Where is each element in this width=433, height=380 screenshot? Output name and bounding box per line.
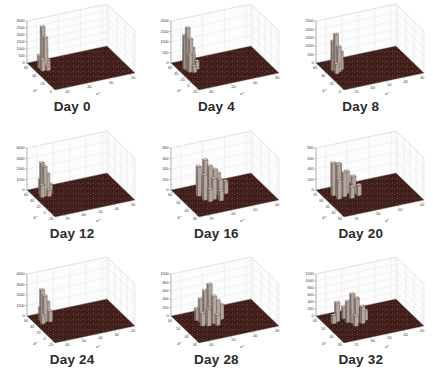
svg-text:60: 60 xyxy=(24,193,28,197)
panel-title: Day 16 xyxy=(194,227,239,241)
svg-text:-50: -50 xyxy=(386,336,391,340)
svg-text:-40: -40 xyxy=(402,333,407,337)
svg-text:3000: 3000 xyxy=(17,19,25,23)
svg-text:40: 40 xyxy=(30,199,34,203)
svg-text:0: 0 xyxy=(44,337,46,341)
svg-text:200: 200 xyxy=(307,177,313,181)
svg-text:1500: 1500 xyxy=(305,36,313,40)
svg-text:2000: 2000 xyxy=(17,293,25,297)
svg-text:20: 20 xyxy=(329,82,333,86)
svg-text:500: 500 xyxy=(307,53,313,57)
svg-text:-30: -30 xyxy=(419,76,424,80)
svg-text:200: 200 xyxy=(163,306,169,310)
svg-text:40: 40 xyxy=(185,335,189,339)
svg-text:-50: -50 xyxy=(231,339,236,343)
svg-text:-30: -30 xyxy=(274,329,279,333)
svg-text:-70: -70 xyxy=(353,217,358,221)
svg-text:500: 500 xyxy=(163,51,169,55)
svg-text:-20: -20 xyxy=(130,76,135,80)
svg-text:40: 40 xyxy=(321,74,325,78)
svg-text:50: 50 xyxy=(177,327,181,331)
hist3d-plot: 02004006008007060504030-70-60-50-40b*a* xyxy=(289,128,433,232)
panel-day-24: 010002000300040006040200-20-60-50-40-30-… xyxy=(0,254,144,380)
svg-text:-40: -40 xyxy=(253,334,258,338)
svg-text:60: 60 xyxy=(169,193,173,197)
svg-text:60: 60 xyxy=(169,319,173,323)
y-axis-label: a* xyxy=(240,218,244,223)
svg-text:50: 50 xyxy=(177,201,181,205)
hist3d-plot: 020040060080060504030-70-60-50-40b*a* xyxy=(144,128,288,232)
y-axis-label: a* xyxy=(96,91,100,96)
svg-text:600: 600 xyxy=(163,289,169,293)
svg-text:600: 600 xyxy=(307,293,313,297)
svg-text:0: 0 xyxy=(44,211,46,215)
svg-text:20: 20 xyxy=(37,205,41,209)
svg-text:30: 30 xyxy=(337,217,341,221)
svg-text:1000: 1000 xyxy=(305,44,313,48)
svg-text:1000: 1000 xyxy=(161,40,169,44)
svg-text:400: 400 xyxy=(163,298,169,302)
svg-text:40: 40 xyxy=(30,325,34,329)
svg-text:-20: -20 xyxy=(130,329,135,333)
svg-text:50: 50 xyxy=(321,327,325,331)
svg-text:2500: 2500 xyxy=(17,26,25,30)
hist3d-plot: 010002000300040006040200-20-70-60-50-40-… xyxy=(0,128,144,232)
svg-text:-30: -30 xyxy=(108,81,113,85)
svg-text:-60: -60 xyxy=(370,86,375,90)
svg-text:800: 800 xyxy=(307,146,313,150)
svg-text:30: 30 xyxy=(193,217,197,221)
hist3d-plot: 05001000150020006040200-20-60-50-40-30b*… xyxy=(144,1,288,105)
svg-text:20: 20 xyxy=(181,78,185,82)
svg-text:30: 30 xyxy=(337,343,341,347)
svg-text:60: 60 xyxy=(24,319,28,323)
svg-text:0: 0 xyxy=(23,61,25,65)
histogram-grid-figure: 0500100015002000250030006040200-50-40-30… xyxy=(0,0,433,380)
svg-text:0: 0 xyxy=(167,61,169,65)
svg-text:-60: -60 xyxy=(370,340,375,344)
svg-text:-40: -40 xyxy=(253,81,258,85)
panel-title: Day 32 xyxy=(338,353,383,367)
hist3d-plot: 0500100015002000250030006040200-50-40-30… xyxy=(0,1,144,105)
svg-text:400: 400 xyxy=(307,300,313,304)
y-axis-label: a* xyxy=(385,344,389,349)
svg-text:40: 40 xyxy=(331,211,335,215)
svg-text:-40: -40 xyxy=(114,206,119,210)
svg-text:400: 400 xyxy=(163,167,169,171)
svg-text:-50: -50 xyxy=(253,207,258,211)
hist3d-plot: 02004006008001000120060504030-70-60-50-4… xyxy=(289,254,433,358)
svg-text:2000: 2000 xyxy=(305,28,313,32)
svg-text:600: 600 xyxy=(307,156,313,160)
svg-text:200: 200 xyxy=(163,177,169,181)
svg-text:4000: 4000 xyxy=(17,146,25,150)
svg-text:500: 500 xyxy=(19,54,25,58)
x-axis-label: b* xyxy=(322,341,326,346)
svg-text:-40: -40 xyxy=(419,203,424,207)
svg-text:-40: -40 xyxy=(274,203,279,207)
svg-text:-70: -70 xyxy=(209,217,214,221)
svg-text:-70: -70 xyxy=(353,90,358,94)
svg-text:2000: 2000 xyxy=(161,19,169,23)
svg-text:0: 0 xyxy=(23,314,25,318)
svg-text:40: 40 xyxy=(185,209,189,213)
svg-text:-40: -40 xyxy=(86,85,91,89)
svg-text:-60: -60 xyxy=(375,212,380,216)
svg-text:-20: -20 xyxy=(48,217,53,221)
hist3d-plot: 010002000300040006040200-20-60-50-40-30-… xyxy=(0,254,144,358)
x-axis-label: b* xyxy=(178,341,182,346)
y-axis-label: a* xyxy=(240,91,244,96)
svg-text:2500: 2500 xyxy=(305,19,313,23)
svg-text:1000: 1000 xyxy=(305,279,313,283)
svg-text:-70: -70 xyxy=(353,343,358,347)
x-axis-label: b* xyxy=(322,88,326,93)
panel-day-20: 02004006008007060504030-70-60-50-40b*a*D… xyxy=(289,128,433,255)
y-axis-label: a* xyxy=(385,218,389,223)
panel-day-12: 010002000300040006040200-20-70-60-50-40-… xyxy=(0,128,144,255)
svg-text:400: 400 xyxy=(307,167,313,171)
svg-text:60: 60 xyxy=(313,319,317,323)
svg-text:-60: -60 xyxy=(81,213,86,217)
svg-text:800: 800 xyxy=(307,286,313,290)
svg-text:20: 20 xyxy=(41,82,45,86)
svg-text:0: 0 xyxy=(311,314,313,318)
svg-text:-50: -50 xyxy=(97,210,102,214)
svg-text:2000: 2000 xyxy=(17,33,25,37)
